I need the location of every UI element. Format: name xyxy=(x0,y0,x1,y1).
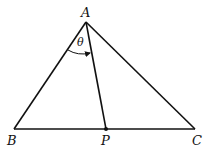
vertex-label-A: A xyxy=(80,5,90,20)
side-AB xyxy=(14,22,86,129)
vertex-label-B: B xyxy=(6,133,17,148)
point-P-marker xyxy=(104,127,108,131)
vertex-label-C: C xyxy=(192,133,202,148)
angle-arc xyxy=(68,50,90,54)
angle-label-theta: θ xyxy=(77,36,84,49)
vertex-label-P: P xyxy=(100,133,110,148)
triangle-diagram: A B P C θ xyxy=(0,0,211,152)
